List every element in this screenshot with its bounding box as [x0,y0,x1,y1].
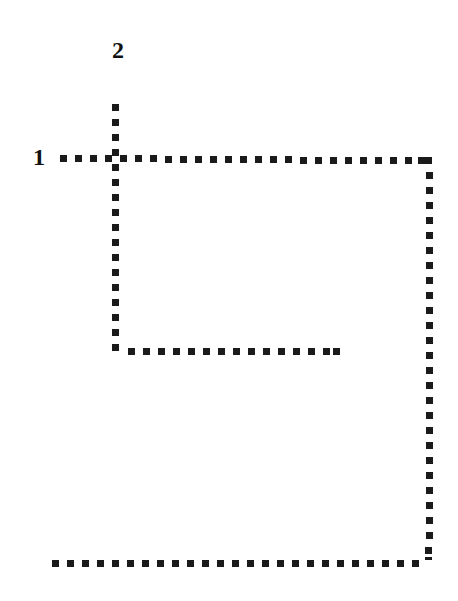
line-1-right-segment [425,172,433,560]
line-1-bottom-segment [52,560,419,567]
line-2-vertical-segment [112,104,119,351]
line-1-top-segment [60,155,432,164]
line-2-horizontal-segment [128,348,340,355]
dotted-lines-diagram [0,0,458,601]
